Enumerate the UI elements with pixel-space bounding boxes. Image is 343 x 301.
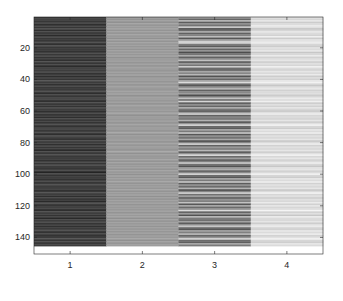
y-tick-label: 40	[20, 74, 30, 84]
heatmap-cell	[34, 245, 107, 247]
y-tick-label: 60	[20, 106, 30, 116]
heatmap-cell	[106, 245, 179, 247]
y-tick-label: 100	[15, 169, 30, 179]
y-tick-label: 80	[20, 138, 30, 148]
x-tick-label: 3	[212, 260, 217, 270]
y-tick-label: 120	[15, 201, 30, 211]
x-tick-label: 1	[68, 260, 73, 270]
x-tick-label: 2	[140, 260, 145, 270]
y-tick-label: 140	[15, 232, 30, 242]
heatmap-figure: 20406080100120140 1234	[0, 0, 343, 301]
heatmap-cells	[34, 17, 323, 246]
heatmap-cell	[179, 245, 252, 247]
x-tick-label: 4	[284, 260, 289, 270]
heatmap-cell	[251, 245, 324, 247]
y-tick-label: 20	[20, 43, 30, 53]
